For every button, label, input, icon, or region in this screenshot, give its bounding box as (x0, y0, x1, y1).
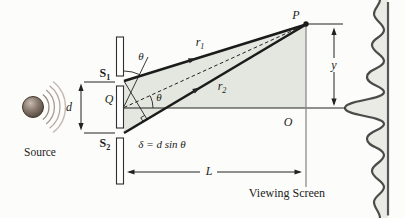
label-y: y (331, 59, 336, 71)
young-double-slit-diagram: Source S1 S2 Q d θ θ r1 r2 P y O L δ = d… (0, 0, 405, 218)
intensity-fill (345, 0, 388, 218)
point-p-dot (303, 21, 308, 26)
label-r1: r1 (196, 36, 205, 51)
angle-arc-top (124, 71, 140, 75)
dimension-arrow-d (78, 82, 115, 133)
label-theta-top: θ (138, 51, 143, 62)
source-sphere (23, 97, 44, 118)
label-s2: S2 (100, 137, 111, 152)
label-s1: S1 (100, 67, 111, 82)
label-path-difference: δ = d sin θ (138, 139, 185, 150)
label-d: d (66, 101, 72, 113)
intensity-pattern (345, 0, 388, 218)
label-r2: r2 (218, 80, 227, 95)
source-waves (43, 81, 66, 132)
label-viewing-screen: Viewing Screen (249, 187, 325, 199)
label-p: P (292, 9, 299, 21)
label-theta-mid: θ (156, 92, 161, 103)
slit-bar-top (117, 37, 124, 76)
diagram-canvas (0, 0, 405, 218)
slit-bar-middle (117, 86, 124, 128)
slit-bar-bottom (117, 138, 124, 184)
label-o: O (284, 116, 293, 128)
barrier (117, 37, 124, 184)
label-source: Source (24, 147, 56, 159)
label-q: Q (105, 93, 114, 105)
dimension-arrow-l (127, 169, 302, 174)
label-l: L (206, 165, 213, 177)
